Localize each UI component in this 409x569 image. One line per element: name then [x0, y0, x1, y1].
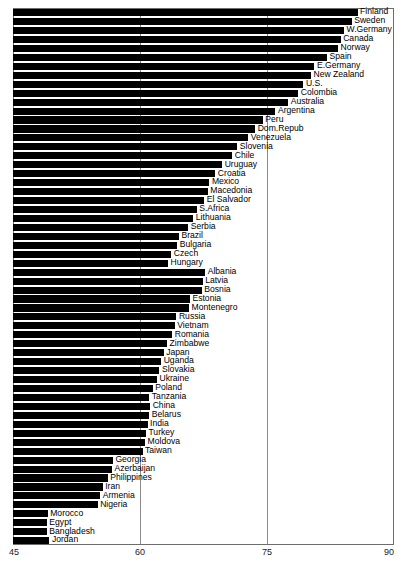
bar [13, 278, 203, 285]
bar [13, 161, 222, 168]
bar-row: Argentina [13, 106, 394, 115]
bar [13, 394, 149, 401]
bar [13, 206, 197, 213]
bar [13, 340, 167, 347]
bar [13, 376, 157, 383]
bar [13, 439, 145, 446]
bar [13, 134, 248, 141]
bar-category-label: Jordan [49, 535, 78, 544]
bar [13, 528, 47, 535]
bar-row: Slovenia [13, 142, 394, 151]
bar [13, 537, 49, 544]
bar-row: Poland [13, 384, 394, 393]
bar [13, 421, 148, 428]
bar [13, 269, 205, 276]
bar [13, 510, 48, 517]
bar [13, 224, 188, 231]
bar [13, 152, 232, 159]
bar [13, 81, 303, 88]
bar-row: China [13, 402, 394, 411]
bar-row: Zimbabwe [13, 339, 394, 348]
bar [13, 492, 100, 499]
bar-row: Belarus [13, 411, 394, 420]
bar-row: Colombia [13, 89, 394, 98]
bar-row: Chile [13, 151, 394, 160]
bar [13, 358, 161, 365]
bar-chart: FinlandSwedenW.GermanyCanadaNorwaySpainE… [0, 0, 409, 569]
bar-row: Georgia [13, 456, 394, 465]
bar [13, 367, 159, 374]
bar [13, 27, 344, 34]
bar-category-label: Hungary [168, 258, 203, 267]
bar [13, 466, 112, 473]
x-tick-label: 90 [384, 547, 394, 557]
bar [13, 474, 108, 481]
bar [13, 197, 204, 204]
x-tick-label: 75 [262, 547, 272, 557]
bar [13, 403, 150, 410]
bar-row: Mexico [13, 178, 394, 187]
bar-row: New Zealand [13, 71, 394, 80]
bar [13, 412, 149, 419]
bar [13, 45, 338, 52]
bar [13, 36, 341, 43]
bar-row: Finland [13, 8, 394, 17]
bar [13, 287, 202, 294]
bar [13, 143, 237, 150]
x-axis-tick-labels: 45607590 [0, 547, 409, 567]
bar [13, 331, 172, 338]
bar [13, 242, 177, 249]
bar [13, 188, 208, 195]
bar [13, 18, 352, 25]
bar-row: Croatia [13, 169, 394, 178]
bar [13, 349, 164, 356]
bar-row: Canada [13, 35, 394, 44]
bar-row: India [13, 420, 394, 429]
bar [13, 54, 327, 61]
bar-row: Philippines [13, 473, 394, 482]
bar [13, 313, 176, 320]
bar [13, 170, 215, 177]
bar-row: Iran [13, 482, 394, 491]
bar [13, 9, 358, 16]
bar [13, 251, 171, 258]
bar-row: Hungary [13, 259, 394, 268]
bar [13, 116, 263, 123]
bar [13, 125, 255, 132]
bar-row: Serbia [13, 223, 394, 232]
bar-row: Slovakia [13, 366, 394, 375]
bar [13, 519, 47, 526]
bar [13, 99, 288, 106]
bar [13, 72, 311, 79]
x-tick-label: 60 [135, 547, 145, 557]
bar-row: Venezuela [13, 133, 394, 142]
bar [13, 457, 113, 464]
bar-row: Turkey [13, 429, 394, 438]
bar-row: Tanzania [13, 393, 394, 402]
bar-row: Uganda [13, 357, 394, 366]
bar [13, 322, 175, 329]
bar-row: Japan [13, 348, 394, 357]
bar [13, 430, 146, 437]
bar-row: Sweden [13, 17, 394, 26]
bar [13, 295, 190, 302]
bar [13, 385, 153, 392]
bar-category-label: Taiwan [143, 446, 172, 455]
x-tick-label: 45 [9, 547, 19, 557]
bar-row: Armenia [13, 491, 394, 500]
bar [13, 260, 168, 267]
bar [13, 215, 193, 222]
bar-row: Azerbaijan [13, 464, 394, 473]
bar [13, 179, 209, 186]
bar-row: Moldova [13, 438, 394, 447]
bar-row: Uruguay [13, 160, 394, 169]
bar-row: Taiwan [13, 447, 394, 456]
bar [13, 108, 275, 115]
bar [13, 63, 314, 70]
bar [13, 483, 103, 490]
bars-container: FinlandSwedenW.GermanyCanadaNorwaySpainE… [13, 8, 394, 545]
bar [13, 304, 189, 311]
bar-row: Czech [13, 250, 394, 259]
bar-row: Ukraine [13, 375, 394, 384]
bar-row: Australia [13, 98, 394, 107]
